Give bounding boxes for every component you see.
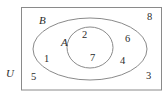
- venn-diagram-canvas: [0, 0, 166, 104]
- set-b-label: B: [39, 15, 46, 26]
- set-a-label: A: [61, 37, 68, 48]
- universal-set-label: U: [6, 68, 14, 79]
- region-element-5: 5: [31, 72, 36, 83]
- region-element-1: 1: [44, 54, 49, 65]
- venn-diagram-figure: U B A 8 6 4 3 1 5 2 7: [0, 0, 166, 104]
- region-element-8: 8: [147, 12, 152, 23]
- region-element-7: 7: [90, 53, 95, 64]
- region-element-4: 4: [120, 56, 125, 67]
- region-element-2: 2: [82, 30, 87, 41]
- region-element-6: 6: [125, 34, 130, 45]
- region-element-3: 3: [146, 71, 151, 82]
